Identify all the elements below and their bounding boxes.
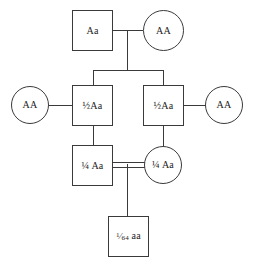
pedigree-node-label: 1⁄64 aa <box>116 231 141 242</box>
pedigree-node-g3-cousin-male[interactable]: ¼ Aa <box>72 145 113 186</box>
pedigree-node-g2-son-right[interactable]: ½Aa <box>143 85 184 126</box>
descent-line-generation-1 <box>127 30 128 71</box>
sibship-line-generation-2 <box>93 70 163 71</box>
pedigree-node-g2-spouse-right[interactable]: AA <box>205 86 243 124</box>
pedigree-node-g4-child[interactable]: 1⁄64 aa <box>108 216 149 257</box>
pedigree-diagram: Aa AA AA ½Aa ½Aa AA ¼ Aa ¼ Aa 1⁄64 aa <box>0 0 255 263</box>
consanguineous-mating-line-lower <box>113 167 145 168</box>
sibship-drop-right <box>163 70 164 85</box>
mating-line-right-couple <box>184 105 206 106</box>
pedigree-node-label: ¼ Aa <box>152 160 174 170</box>
pedigree-node-label: AA <box>23 100 38 110</box>
descent-line-right-couple <box>163 125 164 146</box>
pedigree-node-label: ½Aa <box>83 101 103 111</box>
descent-line-generation-4 <box>127 164 128 216</box>
sibship-drop-left <box>93 70 94 85</box>
pedigree-node-g2-son-left[interactable]: ½Aa <box>72 85 113 126</box>
mating-line-left-couple <box>49 105 73 106</box>
pedigree-node-label: AA <box>156 26 171 36</box>
fraction-one-sixtyfourth: 1⁄64 <box>116 231 129 242</box>
pedigree-node-label: AA <box>217 100 232 110</box>
consanguineous-mating-line-upper <box>113 162 145 163</box>
pedigree-node-g1-father[interactable]: Aa <box>72 10 113 51</box>
pedigree-node-g1-mother[interactable]: AA <box>143 10 184 51</box>
pedigree-node-label: ¼ Aa <box>82 161 104 171</box>
descent-line-left-couple <box>93 125 94 145</box>
pedigree-node-g2-spouse-left[interactable]: AA <box>11 86 49 124</box>
pedigree-node-label: ½Aa <box>154 101 174 111</box>
pedigree-node-g3-cousin-female[interactable]: ¼ Aa <box>144 146 182 184</box>
pedigree-node-label: Aa <box>86 26 98 36</box>
genotype-text: aa <box>129 230 141 241</box>
